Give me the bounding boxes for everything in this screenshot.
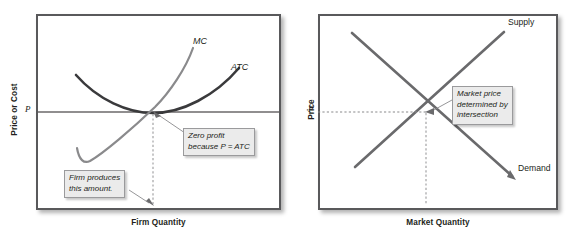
zero-profit-callout-line1: Zero profit bbox=[188, 131, 250, 142]
mc-curve bbox=[77, 48, 193, 162]
firm-y-axis-title: Price or Cost bbox=[10, 70, 19, 150]
zero-profit-callout: Zero profit because P = ATC bbox=[183, 128, 255, 156]
firm-price-tick-label: P bbox=[25, 104, 31, 114]
market-price-callout: Market price determined by intersection bbox=[452, 86, 513, 125]
firm-output-leader bbox=[129, 190, 149, 203]
zero-profit-callout-line2: because P = ATC bbox=[188, 142, 250, 153]
demand-curve-label: Demand bbox=[518, 163, 550, 173]
market-x-axis-title: Market Quantity bbox=[318, 218, 558, 227]
zero-profit-leader bbox=[157, 114, 185, 133]
firm-output-callout-line1: Firm produces bbox=[69, 173, 120, 184]
firm-output-callout: Firm produces this amount. bbox=[64, 170, 125, 198]
mc-curve-label: MC bbox=[193, 36, 207, 46]
firm-x-axis-title: Firm Quantity bbox=[36, 218, 281, 227]
market-price-callout-line3: intersection bbox=[457, 110, 508, 121]
firm-output-callout-line2: this amount. bbox=[69, 184, 120, 195]
supply-curve-label: Supply bbox=[508, 17, 534, 27]
market-price-callout-line1: Market price bbox=[457, 89, 508, 100]
economics-figure: Price or Cost Firm Quantity P MC ATC Zer… bbox=[0, 0, 571, 237]
market-price-tick-label: P bbox=[308, 104, 314, 114]
atc-curve bbox=[76, 68, 239, 113]
market-price-callout-line2: determined by bbox=[457, 100, 508, 111]
atc-curve-label: ATC bbox=[231, 62, 248, 72]
